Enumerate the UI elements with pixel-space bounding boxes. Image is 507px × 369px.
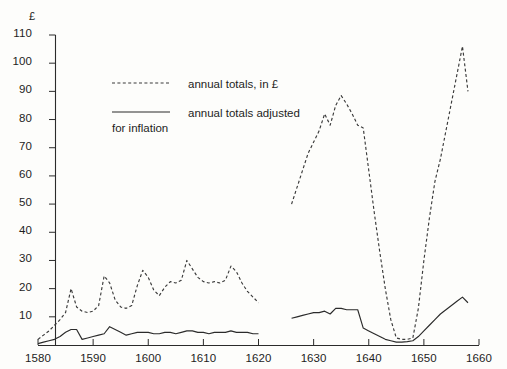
y-tick-label: 80 — [6, 112, 32, 124]
x-tick-label: 1630 — [294, 352, 334, 364]
legend-item-adjusted-for-inflation: annual totals adjusted for inflation — [112, 103, 342, 136]
x-tick-label: 1610 — [183, 352, 223, 364]
x-tick-label: 1620 — [239, 352, 279, 364]
y-tick-label: 60 — [6, 168, 32, 180]
x-tick-label: 1660 — [459, 352, 499, 364]
y-tick-label: 40 — [6, 224, 32, 236]
x-tick-label: 1600 — [128, 352, 168, 364]
legend-item-annual-totals: annual totals, in £ — [112, 74, 342, 92]
y-tick-label: 10 — [6, 309, 32, 321]
x-tick-label: 1650 — [404, 352, 444, 364]
x-tick-label: 1640 — [349, 352, 389, 364]
series-line-adjusted-for-inflation-segment-1 — [292, 297, 468, 342]
y-tick-label: 20 — [6, 281, 32, 293]
series-line-annual-totals-segment-0 — [38, 260, 259, 339]
legend-label-annual-totals: annual totals, in £ — [188, 78, 278, 90]
legend-swatch-solid — [112, 110, 170, 112]
legend-label-line2: for inflation — [112, 121, 342, 136]
y-tick-label: 100 — [6, 55, 32, 67]
y-tick-label: 30 — [6, 252, 32, 264]
y-tick-label: 90 — [6, 83, 32, 95]
y-tick-label: 70 — [6, 140, 32, 152]
legend-label-line1: annual totals adjusted — [188, 107, 300, 119]
chart-plot-area — [0, 0, 507, 369]
chart-legend: annual totals, in £ annual totals adjust… — [112, 74, 342, 147]
x-tick-label: 1580 — [18, 352, 58, 364]
x-axis-ticks — [38, 339, 479, 345]
chart-container: £ 102030405060708090100110 1580159016001… — [0, 0, 507, 369]
y-tick-label: 110 — [6, 27, 32, 39]
legend-label-line1: annual totals, in £ — [188, 78, 278, 90]
legend-swatch-dashed — [112, 81, 170, 83]
x-tick-label: 1590 — [73, 352, 113, 364]
y-tick-label: 50 — [6, 196, 32, 208]
y-axis-ticks — [49, 35, 56, 317]
